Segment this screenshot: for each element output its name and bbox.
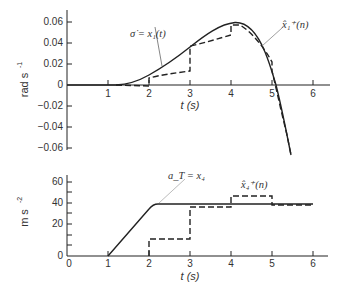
- top-xtick-label: 6: [310, 88, 316, 99]
- series-x1hat-dashed: [116, 25, 291, 155]
- bottom-y-axis-title: m s -2: [16, 197, 30, 227]
- top-x-axis-title: t (s): [181, 99, 200, 111]
- svg-text:m s: m s: [18, 209, 30, 227]
- top-ytick-label: −0.06: [38, 142, 64, 153]
- bottom-xtick-label: 3: [187, 258, 193, 269]
- svg-text:-1: -1: [16, 62, 23, 68]
- bottom-x-ticks: [108, 251, 313, 256]
- bottom-y-ticks: [67, 182, 72, 245]
- top-ytick-label: 0: [57, 79, 63, 90]
- bottom-ytick-label: 40: [52, 197, 64, 208]
- bottom-ytick-label: 60: [52, 176, 64, 187]
- series-x4-solid: [108, 204, 313, 256]
- top-ytick-label: 0.04: [44, 37, 64, 48]
- top-xtick-label: 5: [269, 88, 275, 99]
- svg-text:rad s: rad s: [18, 72, 30, 97]
- bottom-ytick-label: 20: [52, 218, 64, 229]
- top-xtick-label: 3: [187, 88, 193, 99]
- svg-text:-2: -2: [16, 197, 23, 203]
- top-plot: 0.06 0.04 0.02 0 −0.02 −0.04 −0.06 1 2 3…: [16, 10, 330, 155]
- bottom-xtick-label: 1: [105, 258, 111, 269]
- annotation-x1hat: x̂₁⁺(n): [281, 19, 309, 31]
- bottom-xtick-label: 4: [228, 258, 234, 269]
- bottom-xtick-label: 6: [310, 258, 316, 269]
- bottom-plot: 60 40 20 0 0 1 2 3 4 5 6 t (s) m s -2: [16, 170, 328, 282]
- top-x-ticks: [108, 80, 313, 85]
- top-xtick-label: 4: [228, 88, 234, 99]
- bottom-xtick-label: 5: [269, 258, 275, 269]
- top-ytick-label: −0.02: [38, 100, 64, 111]
- top-ytick-label: 0.02: [44, 58, 64, 69]
- bottom-ytick-label: 0: [57, 250, 63, 261]
- annotation-x4: a_T = x₄: [168, 170, 205, 181]
- annotation-leader: [159, 179, 185, 203]
- top-xtick-label: 2: [146, 88, 152, 99]
- annotation-x1: σ̇ = x₁(t): [130, 28, 166, 40]
- top-y-axis-title: rad s -1: [16, 62, 30, 98]
- series-x1-solid: [67, 22, 291, 155]
- bottom-xtick-label: 2: [146, 258, 152, 269]
- figure: 0.06 0.04 0.02 0 −0.02 −0.04 −0.06 1 2 3…: [0, 0, 343, 288]
- top-xtick-label: 1: [105, 88, 111, 99]
- top-ytick-label: 0.06: [44, 16, 64, 27]
- bottom-x-axis-title: t (s): [181, 270, 200, 282]
- bottom-xtick-label: 0: [66, 258, 72, 269]
- series-x4hat-dashed: [149, 196, 313, 256]
- annotation-x4hat: x̂₄⁺(n): [240, 179, 268, 191]
- top-ytick-label: −0.04: [38, 121, 64, 132]
- annotation-leader: [262, 28, 282, 46]
